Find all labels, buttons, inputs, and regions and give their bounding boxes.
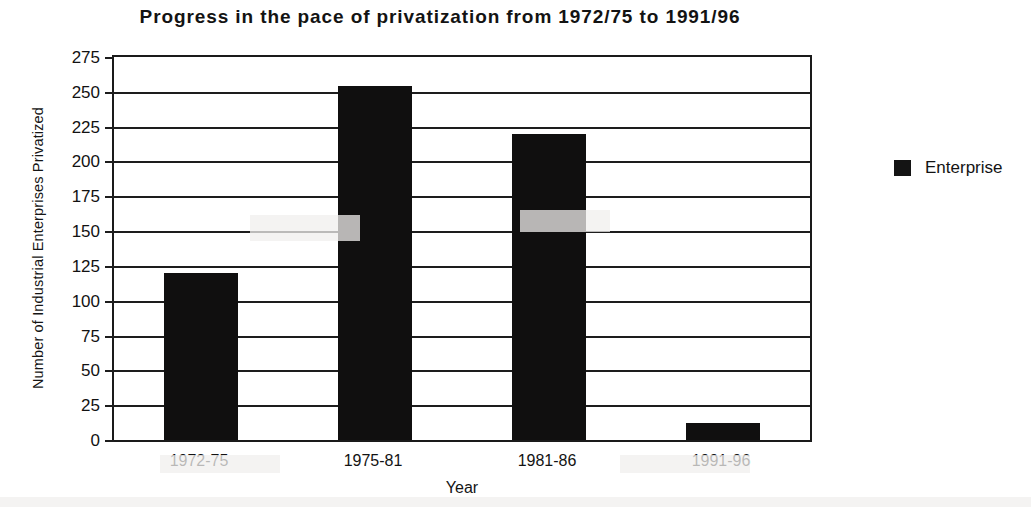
gridline — [114, 196, 810, 198]
y-axis-tick — [105, 405, 114, 407]
bar — [686, 423, 760, 440]
y-axis-tick — [105, 127, 114, 129]
y-axis-tick-label: 225 — [72, 118, 100, 135]
gridline — [114, 92, 810, 94]
chart-legend: Enterprise — [894, 158, 1002, 178]
gridline — [114, 266, 810, 268]
y-axis-tick — [105, 92, 114, 94]
y-axis-tick-label: 150 — [72, 223, 100, 240]
y-axis-tick — [105, 231, 114, 233]
legend-swatch-enterprise — [894, 160, 911, 176]
y-axis-tick — [105, 57, 114, 59]
y-axis-tick-label: 200 — [72, 153, 100, 170]
chart-title: Progress in the pace of privatization fr… — [0, 6, 880, 28]
y-axis-tick-label: 25 — [81, 397, 100, 414]
x-axis-tick-label: 1975-81 — [286, 452, 460, 470]
y-axis-tick — [105, 440, 114, 442]
y-axis-tick — [105, 196, 114, 198]
y-axis-tick-label: 100 — [72, 292, 100, 309]
y-axis-tick-label: 175 — [72, 188, 100, 205]
y-axis-tick — [105, 336, 114, 338]
y-axis-tick-label: 50 — [81, 362, 100, 379]
y-axis-tick — [105, 301, 114, 303]
y-axis-tick — [105, 161, 114, 163]
gridline — [114, 161, 810, 163]
y-axis-tick-label: 250 — [72, 83, 100, 100]
y-axis-title: Number of Industrial Enterprises Privati… — [30, 38, 46, 458]
y-axis-tick — [105, 266, 114, 268]
x-axis-tick-label: 1991-96 — [634, 452, 808, 470]
x-axis-tick-label: 1981-86 — [460, 452, 634, 470]
plot-area: 0255075100125150175200225250275 — [112, 55, 812, 442]
bar-chart-figure: Progress in the pace of privatization fr… — [0, 0, 1031, 507]
x-axis-title: Year — [112, 479, 812, 497]
bar — [164, 273, 238, 440]
bar — [338, 86, 412, 440]
gridline — [114, 127, 810, 129]
legend-label-enterprise: Enterprise — [925, 158, 1002, 178]
y-axis-tick-label: 275 — [72, 49, 100, 66]
scan-artifact — [0, 497, 1031, 507]
x-axis-tick-label: 1972-75 — [112, 452, 286, 470]
y-axis-tick-label: 125 — [72, 257, 100, 274]
gridline — [114, 231, 810, 233]
y-axis-tick-label: 75 — [81, 327, 100, 344]
y-axis-tick-label: 0 — [91, 432, 100, 449]
bar — [512, 134, 586, 440]
y-axis-tick — [105, 370, 114, 372]
